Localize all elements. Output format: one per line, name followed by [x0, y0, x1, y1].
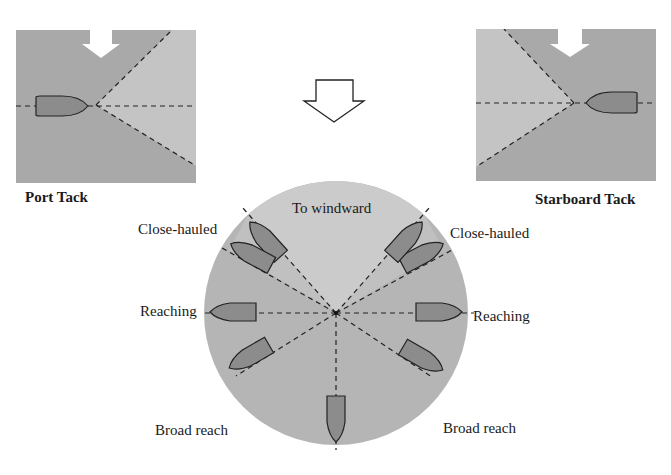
close-hauled-left-label: Close-hauled: [138, 221, 217, 238]
port-tack-panel: [16, 28, 196, 183]
close-hauled-right-label: Close-hauled: [450, 225, 529, 242]
reaching-left-label: Reaching: [140, 303, 197, 320]
reaching-right-label: Reaching: [473, 308, 530, 325]
center-point: [334, 311, 338, 315]
port-tack-label: Port Tack: [25, 189, 88, 206]
to-windward-label: To windward: [292, 200, 371, 217]
points-of-sail-diagram: Port Tack Starboard Tack To windward Clo…: [0, 0, 671, 475]
diagram-canvas: [0, 0, 671, 475]
starboard-tack-panel: [476, 27, 656, 181]
broad-reach-right-label: Broad reach: [443, 420, 516, 437]
broad-reach-left-label: Broad reach: [155, 422, 228, 439]
points-of-sail-circle: [202, 178, 474, 450]
starboard-tack-label: Starboard Tack: [535, 191, 635, 208]
hollow-down-arrow-icon: [304, 80, 364, 122]
